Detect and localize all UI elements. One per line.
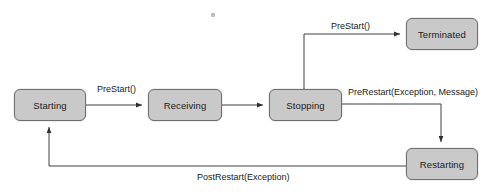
edge-label-prestart-terminated: PreStart(): [331, 21, 370, 31]
edge-label-prestart-starting: PreStart(): [97, 84, 136, 94]
state-node-restarting[interactable]: Restarting: [406, 148, 478, 180]
scan-artifact-speck: [211, 13, 215, 17]
state-label-receiving: Receiving: [164, 100, 207, 111]
edge-stopping-to-terminated: [304, 34, 400, 89]
state-node-starting[interactable]: Starting: [14, 89, 86, 121]
state-node-receiving[interactable]: Receiving: [148, 89, 222, 121]
state-node-terminated[interactable]: Terminated: [406, 18, 478, 50]
edge-restarting-to-starting: [49, 127, 406, 166]
state-diagram: Starting Receiving Stopping Terminated R…: [0, 0, 497, 194]
state-node-stopping[interactable]: Stopping: [269, 89, 342, 121]
state-label-stopping: Stopping: [286, 100, 324, 111]
state-label-terminated: Terminated: [418, 29, 466, 40]
edge-label-prerestart: PreRestart(Exception, Message): [348, 87, 478, 97]
state-label-restarting: Restarting: [420, 159, 464, 170]
state-label-starting: Starting: [33, 100, 67, 111]
edge-label-postrestart: PostRestart(Exception): [197, 172, 290, 182]
edge-stopping-to-restarting: [342, 104, 441, 142]
